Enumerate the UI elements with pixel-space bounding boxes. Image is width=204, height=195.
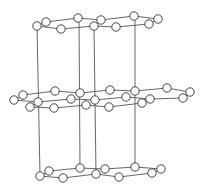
atom <box>10 96 18 104</box>
atom <box>97 16 105 24</box>
atom <box>59 174 67 182</box>
bond-line <box>101 16 134 20</box>
atom <box>112 23 120 31</box>
atom <box>148 169 156 177</box>
atom <box>145 20 153 28</box>
bond-line <box>135 88 167 91</box>
atom <box>106 86 114 94</box>
atom <box>92 170 100 178</box>
atom <box>76 89 84 97</box>
atom <box>34 98 42 106</box>
atom <box>154 15 162 23</box>
bond-line <box>109 103 142 107</box>
atom <box>138 99 146 107</box>
bond-line <box>54 105 86 108</box>
atom <box>186 88 194 96</box>
bond-line <box>116 24 149 27</box>
atom <box>74 14 82 22</box>
interlayer-lines <box>37 16 135 176</box>
bond-line <box>150 98 183 99</box>
atom <box>179 94 187 102</box>
atom <box>51 87 59 95</box>
atom <box>115 173 123 181</box>
atom <box>45 167 53 175</box>
bond-line <box>61 26 94 29</box>
atom <box>131 163 139 171</box>
bond-line <box>23 91 55 95</box>
atom <box>82 101 90 109</box>
bond-line <box>38 99 71 102</box>
atom <box>122 93 130 101</box>
atom <box>26 103 34 111</box>
bond-line <box>46 18 78 22</box>
atom <box>67 95 75 103</box>
crystal-structure-diagram <box>0 0 204 195</box>
atom <box>130 12 138 20</box>
atom <box>50 104 58 112</box>
atom <box>33 22 41 30</box>
atom <box>101 165 109 173</box>
bond-line <box>119 173 152 177</box>
atom <box>57 25 65 33</box>
atom <box>19 91 27 99</box>
atom <box>105 103 113 111</box>
atom <box>76 164 84 172</box>
atom <box>163 84 171 92</box>
bond-line <box>63 174 96 178</box>
bonds <box>14 16 190 178</box>
atom <box>42 18 50 26</box>
atom <box>91 96 99 104</box>
atom <box>157 165 165 173</box>
atom <box>36 172 44 180</box>
atom <box>131 87 139 95</box>
lattice-canvas <box>0 0 204 195</box>
atom <box>146 95 154 103</box>
atom <box>90 22 98 30</box>
